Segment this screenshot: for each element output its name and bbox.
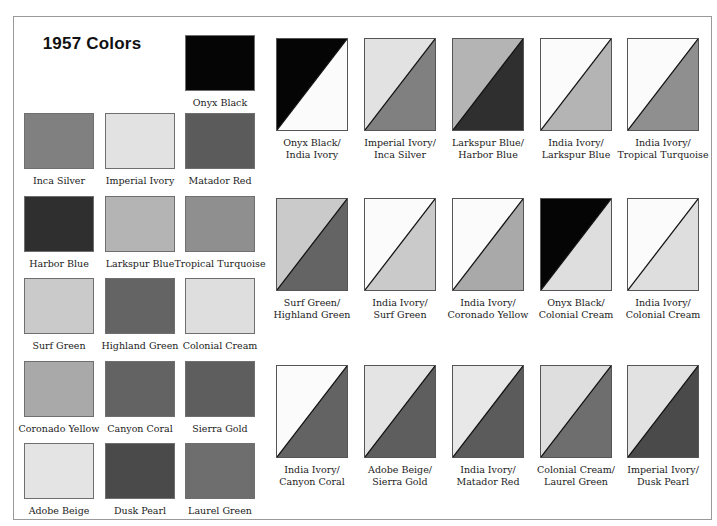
two-tone-combo: India Ivory/Surf Green <box>364 198 436 291</box>
diagonal-split-icon <box>365 366 435 457</box>
two-tone-swatch <box>452 365 524 458</box>
swatch-color-block <box>185 113 255 169</box>
color-swatch: Highland Green <box>105 278 175 334</box>
swatch-label: Tropical Turquoise <box>165 258 275 269</box>
two-tone-combo: Colonial Cream/Laurel Green <box>540 365 612 458</box>
two-tone-combo: India Ivory/Tropical Turquoise <box>627 38 699 131</box>
swatch-color-block <box>24 113 94 169</box>
color-swatch: Matador Red <box>185 113 255 169</box>
swatch-color-block <box>185 443 255 499</box>
two-tone-combo: Onyx Black/Colonial Cream <box>540 198 612 291</box>
diagonal-split-icon <box>453 366 523 457</box>
diagonal-split-icon <box>277 366 347 457</box>
two-tone-swatch <box>627 365 699 458</box>
color-swatch: Tropical Turquoise <box>185 196 255 252</box>
combo-label-line2: Colonial Cream <box>605 309 717 321</box>
two-tone-combo: India Ivory/Larkspur Blue <box>540 38 612 131</box>
two-tone-combo: Imperial Ivory/Inca Silver <box>364 38 436 131</box>
swatch-color-block <box>24 278 94 334</box>
page-title: 1957 Colors <box>32 34 152 54</box>
combo-label-line2: Dusk Pearl <box>605 476 717 488</box>
two-tone-swatch <box>540 198 612 291</box>
swatch-color-block <box>105 443 175 499</box>
diagonal-split-icon <box>453 199 523 290</box>
color-swatch: Coronado Yellow <box>24 361 94 417</box>
diagonal-split-icon <box>365 39 435 130</box>
two-tone-combo: Surf Green/Highland Green <box>276 198 348 291</box>
color-swatch: Larkspur Blue <box>105 196 175 252</box>
two-tone-combo: Adobe Beige/Sierra Gold <box>364 365 436 458</box>
color-swatch: Canyon Coral <box>105 361 175 417</box>
two-tone-swatch <box>276 365 348 458</box>
swatch-label: Onyx Black <box>165 97 275 108</box>
two-tone-combo: India Ivory/Canyon Coral <box>276 365 348 458</box>
color-swatch: Surf Green <box>24 278 94 334</box>
two-tone-swatch <box>540 365 612 458</box>
swatch-color-block <box>24 196 94 252</box>
swatch-color-block <box>185 278 255 334</box>
swatch-label: Laurel Green <box>165 505 275 516</box>
diagonal-split-icon <box>628 39 698 130</box>
two-tone-swatch <box>627 198 699 291</box>
diagonal-split-icon <box>277 199 347 290</box>
diagonal-split-icon <box>628 366 698 457</box>
two-tone-swatch <box>364 365 436 458</box>
swatch-color-block <box>185 196 255 252</box>
color-swatch: Onyx Black <box>185 35 255 91</box>
two-tone-swatch <box>540 38 612 131</box>
swatch-color-block <box>24 361 94 417</box>
color-swatch: Adobe Beige <box>24 443 94 499</box>
swatch-color-block <box>105 113 175 169</box>
color-swatch: Sierra Gold <box>185 361 255 417</box>
diagonal-split-icon <box>541 39 611 130</box>
diagonal-split-icon <box>453 39 523 130</box>
two-tone-swatch <box>627 38 699 131</box>
two-tone-combo: Onyx Black/India Ivory <box>276 38 348 131</box>
diagonal-split-icon <box>277 39 347 130</box>
two-tone-swatch <box>364 38 436 131</box>
swatch-color-block <box>105 361 175 417</box>
diagonal-split-icon <box>628 199 698 290</box>
combo-label-line1: India Ivory/ <box>605 137 717 149</box>
two-tone-combo: India Ivory/Colonial Cream <box>627 198 699 291</box>
two-tone-swatch <box>452 198 524 291</box>
swatch-label: Sierra Gold <box>165 423 275 434</box>
two-tone-swatch <box>276 38 348 131</box>
color-swatch: Harbor Blue <box>24 196 94 252</box>
color-swatch: Imperial Ivory <box>105 113 175 169</box>
combo-label: India Ivory/Colonial Cream <box>605 297 717 321</box>
combo-label: Imperial Ivory/Dusk Pearl <box>605 464 717 488</box>
swatch-color-block <box>105 278 175 334</box>
combo-label-line1: India Ivory/ <box>605 297 717 309</box>
combo-label-line2: Tropical Turquoise <box>605 149 717 161</box>
color-swatch: Inca Silver <box>24 113 94 169</box>
combo-label-line1: Imperial Ivory/ <box>605 464 717 476</box>
two-tone-combo: Larkspur Blue/Harbor Blue <box>452 38 524 131</box>
swatch-label: Matador Red <box>165 175 275 186</box>
combo-label: India Ivory/Tropical Turquoise <box>605 137 717 161</box>
diagonal-split-icon <box>365 199 435 290</box>
two-tone-swatch <box>364 198 436 291</box>
color-swatch: Colonial Cream <box>185 278 255 334</box>
swatch-color-block <box>185 361 255 417</box>
swatch-color-block <box>185 35 255 91</box>
color-swatch: Laurel Green <box>185 443 255 499</box>
swatch-color-block <box>105 196 175 252</box>
two-tone-combo: Imperial Ivory/Dusk Pearl <box>627 365 699 458</box>
two-tone-swatch <box>276 198 348 291</box>
color-swatch: Dusk Pearl <box>105 443 175 499</box>
two-tone-combo: India Ivory/Matador Red <box>452 365 524 458</box>
two-tone-combo: India Ivory/Coronado Yellow <box>452 198 524 291</box>
swatch-label: Colonial Cream <box>165 340 275 351</box>
two-tone-swatch <box>452 38 524 131</box>
swatch-color-block <box>24 443 94 499</box>
diagonal-split-icon <box>541 199 611 290</box>
diagonal-split-icon <box>541 366 611 457</box>
